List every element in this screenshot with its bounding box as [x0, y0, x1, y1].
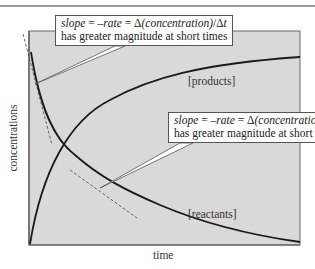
y-axis-label: concentrations: [7, 104, 19, 171]
annotation-callout-1: slope = –rate = Δ(concentration)/Δt has …: [55, 15, 233, 46]
callout-1-line1: slope = –rate = Δ(concentration)/Δt: [61, 17, 227, 30]
annotation-callout-2: slope = –rate = Δ(concentration)/Δt has …: [168, 112, 315, 143]
callout-2-line2: has greater magnitude at short times: [174, 127, 315, 140]
products-label: [products]: [188, 75, 235, 87]
reactants-label: [reactants]: [188, 208, 237, 220]
x-axis-label: time: [153, 249, 173, 261]
callout-2-line1: slope = –rate = Δ(concentration)/Δt: [174, 114, 315, 127]
callout-1-line2: has greater magnitude at short times: [61, 30, 227, 43]
